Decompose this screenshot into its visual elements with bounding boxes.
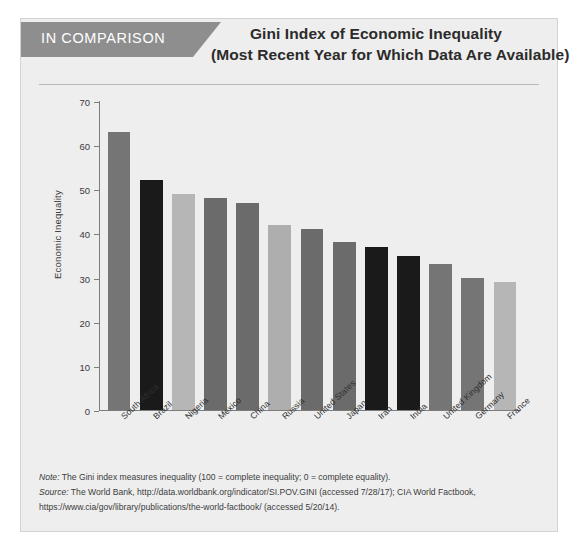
note-line: Note: The Gini index measures inequality… xyxy=(39,470,541,485)
bar-slot xyxy=(392,101,424,410)
bar-slot xyxy=(232,101,264,410)
source-label: Source: xyxy=(39,487,69,497)
ribbon-label: IN COMPARISON xyxy=(41,30,165,46)
y-tick-label: 0 xyxy=(85,406,90,417)
x-label-slot: France xyxy=(489,414,521,424)
comparison-chart-card: IN COMPARISON Gini Index of Economic Ine… xyxy=(20,18,558,532)
bar-slot xyxy=(264,101,296,410)
y-tick-label: 20 xyxy=(79,317,90,328)
x-axis-labels: South AfricaBrazilNigeriaMexicoChinaRuss… xyxy=(103,414,521,424)
bar-slot xyxy=(199,101,231,410)
footnotes: Note: The Gini index measures inequality… xyxy=(39,470,541,515)
bar-slot xyxy=(135,101,167,410)
y-tick-label: 10 xyxy=(79,361,90,372)
note-text: The Gini index measures inequality (100 … xyxy=(60,472,391,482)
x-label-slot: Germany xyxy=(457,414,489,424)
x-label-slot: India xyxy=(392,414,424,424)
note-label: Note: xyxy=(39,472,60,482)
bar-china[interactable] xyxy=(236,203,259,410)
bar-series xyxy=(103,101,521,410)
chart-title-line-1: Gini Index of Economic Inequality xyxy=(211,23,541,44)
chart-axes: 010203040506070 xyxy=(99,101,537,411)
y-tick-label: 30 xyxy=(79,273,90,284)
y-tick-label: 60 xyxy=(79,141,90,152)
y-tick-label: 40 xyxy=(79,229,90,240)
y-tick: 40 xyxy=(94,234,99,235)
y-tick: 0 xyxy=(94,411,99,412)
bar-slot xyxy=(328,101,360,410)
bar-united-kingdom[interactable] xyxy=(429,264,452,410)
chart-title-line-2: (Most Recent Year for Which Data Are Ava… xyxy=(211,44,541,65)
bar-india[interactable] xyxy=(397,256,420,411)
bar-south-africa[interactable] xyxy=(108,132,131,410)
x-label-slot: United States xyxy=(296,414,328,424)
x-label-slot: Russia xyxy=(264,414,296,424)
x-label-slot: South Africa xyxy=(103,414,135,424)
x-label-slot: United Kingdom xyxy=(425,414,457,424)
bar-brazil[interactable] xyxy=(140,180,163,410)
x-label-slot: Iran xyxy=(360,414,392,424)
y-axis-line xyxy=(99,101,100,411)
y-tick-label: 70 xyxy=(79,97,90,108)
y-tick: 70 xyxy=(94,102,99,103)
chart-plot-area: Economic Inequality 010203040506070 Sout… xyxy=(21,89,557,449)
chart-title: Gini Index of Economic Inequality (Most … xyxy=(211,23,541,65)
bar-slot xyxy=(489,101,521,410)
y-tick: 20 xyxy=(94,323,99,324)
bar-slot xyxy=(103,101,135,410)
bar-united-states[interactable] xyxy=(301,229,324,410)
y-tick: 50 xyxy=(94,190,99,191)
y-tick: 10 xyxy=(94,367,99,368)
y-tick: 30 xyxy=(94,279,99,280)
source-line: Source: The World Bank, http://data.worl… xyxy=(39,485,541,500)
y-tick-label: 50 xyxy=(79,185,90,196)
bar-nigeria[interactable] xyxy=(172,194,195,410)
y-tick: 60 xyxy=(94,146,99,147)
y-axis-title: Economic Inequality xyxy=(52,165,63,305)
bar-slot xyxy=(457,101,489,410)
x-label-slot: Brazil xyxy=(135,414,167,424)
bar-slot xyxy=(167,101,199,410)
x-label-slot: Nigeria xyxy=(167,414,199,424)
source-text: The World Bank, http://data.worldbank.or… xyxy=(69,487,476,497)
x-label-slot: China xyxy=(232,414,264,424)
bar-slot xyxy=(296,101,328,410)
title-divider xyxy=(39,84,539,85)
bar-iran[interactable] xyxy=(365,247,388,410)
bar-slot xyxy=(360,101,392,410)
bar-russia[interactable] xyxy=(268,225,291,410)
x-label-slot: Mexico xyxy=(199,414,231,424)
card-header: IN COMPARISON Gini Index of Economic Ine… xyxy=(21,19,557,81)
source-line-2: https://www.cia/gov/library/publications… xyxy=(39,500,541,515)
bar-slot xyxy=(425,101,457,410)
bar-mexico[interactable] xyxy=(204,198,227,410)
x-label-slot: Japan xyxy=(328,414,360,424)
